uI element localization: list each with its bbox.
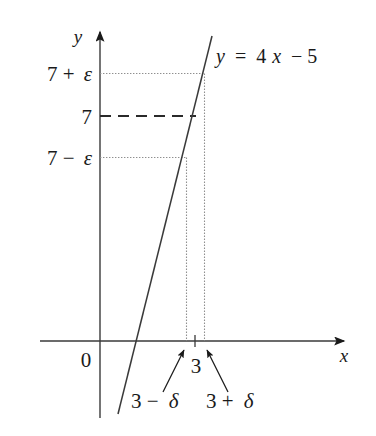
equation-y: y xyxy=(214,45,225,68)
y-tick-lower-main: 7 − xyxy=(47,146,75,170)
pointer-arrow-x-upper xyxy=(207,350,228,392)
x-axis-label: x xyxy=(339,345,349,366)
y-tick-label-limit: 7 xyxy=(82,105,93,129)
y-axis-label: y xyxy=(72,26,83,47)
x-bound-label-lower: 3 − δ xyxy=(131,389,180,413)
y-tick-label-lower: 7 − ε xyxy=(47,146,93,170)
x-bound-upper-main: 3 + xyxy=(206,389,234,413)
limit-diagram-figure: y x 0 7 + ε 7 7 − ε 3 3 − δ 3 + δ y = 4 xyxy=(0,0,376,436)
y-tick-upper-main: 7 + xyxy=(47,62,75,86)
y-tick-lower-symbol: ε xyxy=(84,146,93,170)
x-bound-lower-symbol: δ xyxy=(169,389,180,413)
pointer-arrow-x-lower xyxy=(163,350,184,392)
curve-equation-label: y = 4 x − 5 xyxy=(214,45,317,68)
equation-var: x xyxy=(271,45,281,67)
equation-eq: = xyxy=(235,45,246,67)
origin-label: 0 xyxy=(81,348,92,372)
x-bound-upper-symbol: δ xyxy=(244,389,255,413)
x-tick-label-center: 3 xyxy=(191,354,202,378)
equation-slope: 4 xyxy=(256,45,266,67)
x-bound-lower-main: 3 − xyxy=(131,389,159,413)
y-tick-label-upper: 7 + ε xyxy=(47,62,93,86)
figure-canvas: y x 0 7 + ε 7 7 − ε 3 3 − δ 3 + δ y = 4 xyxy=(0,0,376,436)
x-bound-label-upper: 3 + δ xyxy=(206,389,255,413)
equation-rest: − 5 xyxy=(291,45,317,67)
y-tick-upper-symbol: ε xyxy=(84,62,93,86)
